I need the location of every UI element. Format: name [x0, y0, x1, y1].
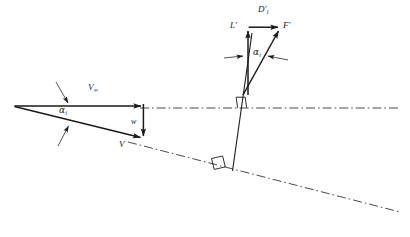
label-alpha-i-right: αi [253, 48, 261, 57]
label-alpha-i-left-subscript: i [65, 109, 67, 116]
label-v-infinity-subscript: ∞ [94, 86, 98, 93]
label-l-prime-mark: ′ [235, 20, 237, 30]
label-alpha-i-left: αi [59, 106, 67, 115]
label-f-prime: F′ [283, 21, 290, 30]
right-angle-marker-upper-base [236, 97, 237, 108]
label-w-symbol: w [131, 117, 136, 126]
right-angle-marker-lower [212, 156, 226, 169]
left-velocity-triangle [15, 82, 144, 146]
alpha-i-right-leader-left [224, 56, 243, 58]
chord-line [233, 33, 253, 171]
right-force-triangle [224, 27, 288, 95]
inclined-dashdot-line [128, 142, 400, 212]
alpha-i-right-leader-right [268, 56, 288, 60]
label-d-prime-i-subscript: i [267, 8, 269, 15]
vector-diagram-svg [0, 0, 410, 237]
chord-line-group [233, 33, 253, 171]
label-d-prime-i: D′i [258, 5, 268, 14]
label-v-local-symbol: V [119, 139, 125, 149]
alpha-i-left-leader-bottom [58, 126, 69, 146]
figure-canvas: V∞ αi w V L′ D′i F′ αi [0, 0, 410, 237]
v-resultant-vector [15, 107, 141, 138]
alpha-i-left-leader-top [56, 82, 68, 103]
label-v-infinity-symbol: V [88, 82, 94, 92]
label-l-prime: L′ [230, 21, 237, 30]
label-w: w [131, 118, 136, 126]
label-v-infinity: V∞ [88, 83, 98, 92]
label-alpha-i-right-subscript: i [259, 51, 261, 58]
reference-lines [128, 108, 400, 212]
label-f-prime-mark: ′ [289, 20, 291, 30]
label-v-local: V [119, 140, 125, 149]
